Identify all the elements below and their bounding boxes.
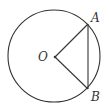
circle-o — [8, 10, 100, 102]
geometry-diagram: O A B — [0, 0, 109, 109]
label-b: B — [90, 90, 100, 104]
label-o: O — [38, 50, 48, 64]
center-point-o — [54, 56, 57, 59]
segment-ob — [55, 57, 88, 89]
label-a: A — [90, 11, 100, 25]
segment-oa — [55, 24, 88, 57]
